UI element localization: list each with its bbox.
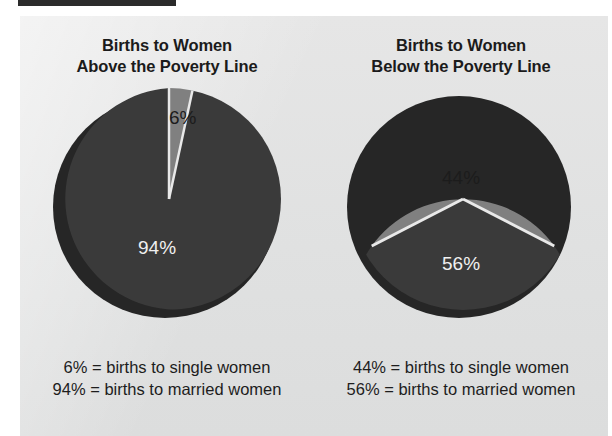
chart-caption-above-poverty-line: 6% = births to single women 94% = births… xyxy=(20,356,314,400)
chart-above-poverty-line: Births to Women Above the Poverty Line 6… xyxy=(20,16,314,436)
chart-below-poverty-line: Births to Women Below the Poverty Line 4… xyxy=(314,16,608,436)
chart-caption-below-poverty-line: 44% = births to single women 56% = birth… xyxy=(314,356,608,400)
pie-disc xyxy=(57,88,281,310)
chart-title-above-poverty-line: Births to Women Above the Poverty Line xyxy=(76,35,257,77)
clipped-header-bar xyxy=(18,0,176,6)
pie-slice-dark xyxy=(351,199,575,310)
chart-title-below-poverty-line: Births to Women Below the Poverty Line xyxy=(371,35,550,77)
figure-panel: Births to Women Above the Poverty Line 6… xyxy=(20,16,608,436)
pie-chart-below-poverty-line: 44% 56% xyxy=(347,86,575,318)
pie-disc xyxy=(351,88,575,310)
pie-chart-above-poverty-line: 6% 94% xyxy=(53,86,281,318)
charts-container: Births to Women Above the Poverty Line 6… xyxy=(20,16,608,436)
